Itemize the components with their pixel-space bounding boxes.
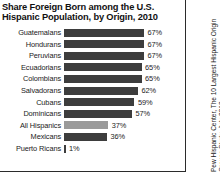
category-label: Salvadorans bbox=[0, 86, 64, 95]
chart-title-line-1: Share Foreign Born among the U.S. bbox=[2, 2, 182, 12]
bar-row: Dominicans 57% bbox=[0, 108, 185, 120]
bar-ecuadorians bbox=[64, 63, 142, 71]
chart-title-line-2: Hispanic Population, by Origin, 2010 bbox=[2, 12, 182, 22]
bar-row: Mexicans 36% bbox=[0, 131, 185, 143]
chart-title: Share Foreign Born among the U.S. Hispan… bbox=[0, 0, 185, 23]
category-label: Hondurans bbox=[0, 40, 64, 49]
bar-all-hispanics bbox=[64, 121, 108, 129]
bar-hondurans bbox=[64, 40, 144, 48]
bar-row: Salvadorans 62% bbox=[0, 85, 185, 97]
source-strip: Pew Hispanic Center, The 10 Largest Hisp… bbox=[186, 0, 220, 184]
bar-track: 65% bbox=[64, 73, 185, 85]
value-label: 65% bbox=[142, 63, 160, 72]
bar-row: Ecuadorians 65% bbox=[0, 62, 185, 74]
bar-track: 62% bbox=[64, 85, 185, 97]
bar-plot-area: Guatemalans 67% Hondurans 67% Peruvians … bbox=[0, 23, 185, 171]
chart-container: Share Foreign Born among the U.S. Hispan… bbox=[0, 0, 186, 172]
bar-peruvians bbox=[64, 52, 144, 60]
bar-track: 67% bbox=[64, 38, 185, 50]
category-label: Dominicans bbox=[0, 109, 64, 118]
bar-track: 36% bbox=[64, 131, 185, 143]
bar-guatemalans bbox=[64, 29, 144, 37]
bar-mexicans bbox=[64, 133, 107, 141]
value-label: 59% bbox=[134, 98, 152, 107]
category-label: Mexicans bbox=[0, 132, 64, 141]
bar-row: Guatemalans 67% bbox=[0, 27, 185, 39]
category-label: Guatemalans bbox=[0, 28, 64, 37]
category-label: Colombians bbox=[0, 74, 64, 83]
category-label: Puerto Ricans bbox=[0, 144, 64, 153]
bar-row: All Hispanics 37% bbox=[0, 120, 185, 132]
bar-colombians bbox=[64, 75, 142, 83]
bar-track: 67% bbox=[64, 27, 185, 39]
value-label: 67% bbox=[144, 51, 162, 60]
value-label: 57% bbox=[132, 109, 150, 118]
value-label: 67% bbox=[144, 40, 162, 49]
value-label: 67% bbox=[144, 28, 162, 37]
value-label: 1% bbox=[66, 144, 80, 153]
category-label: Peruvians bbox=[0, 51, 64, 60]
category-label: Ecuadorians bbox=[0, 63, 64, 72]
bar-track: 59% bbox=[64, 96, 185, 108]
value-label: 65% bbox=[142, 74, 160, 83]
bar-row: Cubans 59% bbox=[0, 96, 185, 108]
bar-track: 37% bbox=[64, 120, 185, 132]
bar-track: 67% bbox=[64, 50, 185, 62]
category-label: All Hispanics bbox=[0, 121, 64, 130]
bar-row: Peruvians 67% bbox=[0, 50, 185, 62]
value-label: 62% bbox=[138, 86, 156, 95]
bar-track: 65% bbox=[64, 62, 185, 74]
source-citation: Pew Hispanic Center, The 10 Largest Hisp… bbox=[210, 4, 220, 172]
bar-row: Hondurans 67% bbox=[0, 38, 185, 50]
bar-row: Colombians 65% bbox=[0, 73, 185, 85]
value-label: 37% bbox=[108, 121, 126, 130]
bar-track: 57% bbox=[64, 108, 185, 120]
category-label: Cubans bbox=[0, 98, 64, 107]
bar-cubans bbox=[64, 98, 134, 106]
bar-salvadorans bbox=[64, 87, 138, 95]
bar-row: Puerto Ricans 1% bbox=[0, 143, 185, 155]
bar-track: 1% bbox=[64, 143, 185, 155]
bar-dominicans bbox=[64, 110, 132, 118]
figure: Share Foreign Born among the U.S. Hispan… bbox=[0, 0, 220, 184]
value-label: 36% bbox=[107, 132, 125, 141]
